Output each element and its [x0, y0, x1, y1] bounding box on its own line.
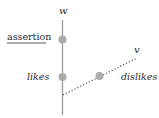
likes-label: likes: [27, 71, 49, 82]
dislikes-dot: [96, 72, 104, 80]
likes-dot: [59, 73, 67, 81]
assertion-dot: [59, 36, 67, 44]
axis-w-label: w: [59, 5, 68, 16]
axis-v-label: v: [134, 44, 140, 55]
dislikes-label: dislikes: [121, 71, 157, 82]
vector-diagram: w v assertion likes dislikes: [0, 0, 159, 118]
assertion-label: assertion: [7, 31, 51, 42]
